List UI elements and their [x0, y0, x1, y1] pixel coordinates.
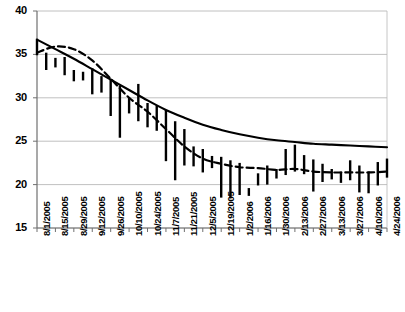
gridlines-group [37, 11, 387, 228]
range-bars-group [37, 39, 387, 199]
y-axis-tick-label: 25 [1, 134, 27, 146]
y-axis-tick-label: 35 [1, 47, 27, 59]
axis-lines-group [33, 11, 387, 228]
dashed-fitted-line-path [37, 46, 387, 172]
chart-plot-svg [0, 0, 405, 312]
xaxis-ticks-group [37, 228, 387, 232]
y-axis-tick-label: 20 [1, 178, 27, 190]
solid-trend-line-path [37, 40, 387, 148]
y-axis-tick-label: 40 [1, 4, 27, 16]
dashed-fitted-line [37, 46, 387, 172]
y-axis-tick-label: 30 [1, 91, 27, 103]
chart-container: 152025303540 8/1/20058/15/20058/29/20059… [0, 0, 405, 312]
solid-trend-line [37, 40, 387, 148]
y-axis-tick-label: 15 [1, 221, 27, 233]
